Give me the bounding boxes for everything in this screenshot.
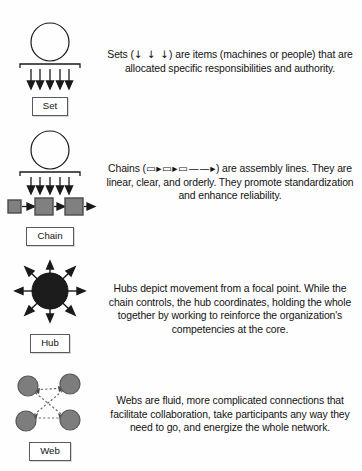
figure-set: Set bbox=[0, 22, 100, 116]
figure-chain: Chain bbox=[0, 130, 100, 246]
concept-row-chain: Chain Chains (▭▸▭▸▭——▸) are assembly lin… bbox=[0, 130, 362, 248]
concept-row-set: Set Sets (↓ ↓ ↓) are items (machines or … bbox=[0, 22, 362, 118]
label-chip-set: Set bbox=[32, 97, 68, 116]
label-chip-wrap-hub: Hub bbox=[30, 334, 70, 353]
circle-bracket-arrows-icon bbox=[4, 22, 96, 94]
description-hub: Hubs depict movement from a focal point.… bbox=[100, 258, 362, 336]
circle-bracket-arrows-boxes-icon bbox=[2, 130, 98, 222]
concept-row-web: Web Webs are fluid, more complicated con… bbox=[0, 372, 362, 466]
description-chain: Chains (▭▸▭▸▭——▸) are assembly lines. Th… bbox=[100, 130, 362, 203]
label-chip-hub: Hub bbox=[30, 334, 70, 353]
description-chain-lead: Chains ( bbox=[108, 163, 146, 174]
label-chip-chain: Chain bbox=[26, 227, 73, 246]
label-chip-wrap-set: Set bbox=[32, 97, 68, 116]
figure-web: Web bbox=[0, 372, 100, 461]
radiating-hub-icon bbox=[8, 258, 92, 328]
down-arrows-inline-icon: ↓ ↓ ↓ bbox=[134, 48, 169, 60]
label-chip-wrap-chain: Chain bbox=[26, 227, 73, 246]
description-set: Sets (↓ ↓ ↓) are items (machines or peop… bbox=[100, 22, 362, 75]
diagram-page: Set Sets (↓ ↓ ↓) are items (machines or … bbox=[0, 0, 362, 471]
concept-row-hub: Hub Hubs depict movement from a focal po… bbox=[0, 258, 362, 358]
box-chain-inline-icon: ▭▸▭▸▭——▸ bbox=[146, 162, 216, 174]
figure-hub: Hub bbox=[0, 258, 100, 353]
description-web: Webs are fluid, more complicated connect… bbox=[100, 372, 362, 435]
web-network-icon bbox=[10, 372, 90, 438]
label-chip-web: Web bbox=[29, 442, 71, 461]
label-chip-wrap-web: Web bbox=[29, 442, 71, 461]
description-set-lead: Sets ( bbox=[107, 49, 134, 60]
